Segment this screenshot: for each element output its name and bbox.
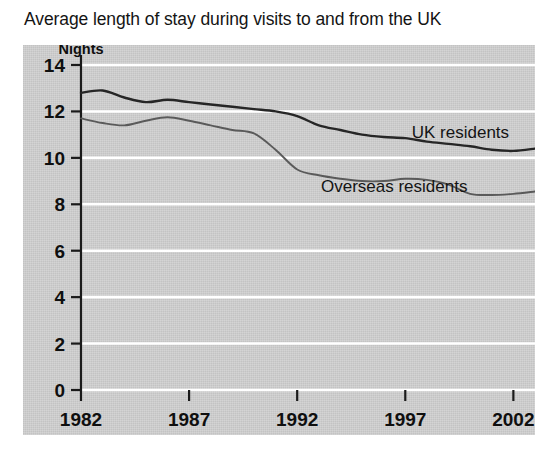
y-tick-marks (71, 65, 81, 390)
y-tick-label: 10 (44, 148, 65, 169)
y-tick-label: 12 (44, 101, 65, 122)
y-tick-label: 14 (44, 55, 66, 76)
y-tick-label: 8 (54, 194, 65, 215)
y-tick-labels: 02468101214 (44, 55, 66, 401)
line-chart-svg: 02468101214 19821987199219972002 Nights … (23, 45, 535, 435)
x-tick-label: 2002 (492, 409, 534, 430)
y-tick-label: 4 (54, 287, 65, 308)
x-tick-labels: 19821987199219972002 (60, 409, 535, 430)
series-label: UK residents (412, 123, 509, 142)
y-tick-label: 0 (54, 380, 65, 401)
page-title: Average length of stay during visits to … (24, 9, 441, 30)
y-tick-label: 6 (54, 241, 65, 262)
x-tick-marks (81, 390, 513, 401)
x-tick-label: 1987 (168, 409, 210, 430)
x-tick-label: 1997 (384, 409, 426, 430)
x-tick-label: 1992 (276, 409, 318, 430)
series-label: Overseas residents (321, 177, 467, 196)
gridlines (81, 65, 535, 390)
chart-figure: Average length of stay during visits to … (0, 0, 555, 450)
x-tick-label: 1982 (60, 409, 102, 430)
y-axis-title: Nights (58, 45, 103, 57)
y-tick-label: 2 (54, 334, 65, 355)
series-annotations: UK residentsOverseas residents (321, 123, 509, 195)
plot-panel: 02468101214 19821987199219972002 Nights … (23, 45, 535, 435)
